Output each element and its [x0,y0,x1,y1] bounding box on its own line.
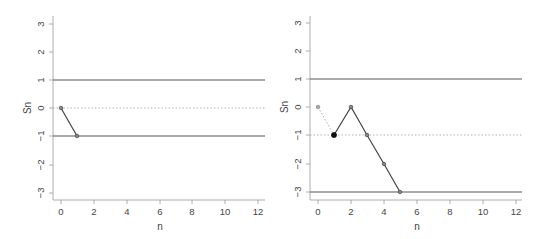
right-point-current [331,132,336,137]
svg-text:0: 0 [315,206,320,217]
left-y-ticks [49,24,53,193]
svg-text:−3: −3 [292,187,303,198]
left-y-tick-labels: 3 2 1 0 −1 −2 −3 [35,21,46,198]
svg-text:3: 3 [35,21,46,26]
svg-text:−2: −2 [35,160,46,171]
svg-text:4: 4 [381,206,386,217]
right-y-ticks [306,23,310,192]
svg-text:8: 8 [189,206,194,217]
svg-text:4: 4 [124,206,129,217]
left-path-line [61,108,77,136]
right-y-tick-labels: 3 2 1 0 −1 −2 −3 [292,20,303,197]
right-path-line [334,107,400,192]
right-prior-step-line [318,107,334,135]
svg-text:6: 6 [414,206,419,217]
left-y-axis-title: Sn [22,102,33,114]
right-point [365,133,369,137]
svg-text:12: 12 [253,206,264,217]
svg-text:0: 0 [292,104,303,109]
svg-text:2: 2 [91,206,96,217]
left-point [59,106,63,110]
right-x-axis-title: n [414,221,420,232]
right-plot: 3 2 1 0 −1 −2 −3 Sn 0 2 4 6 8 10 12 n [279,16,522,232]
svg-text:−3: −3 [35,188,46,199]
svg-text:2: 2 [348,206,353,217]
svg-text:6: 6 [157,206,162,217]
svg-text:−2: −2 [292,159,303,170]
svg-text:−1: −1 [292,130,303,141]
figure: 3 2 1 0 −1 −2 −3 Sn 0 2 4 6 8 10 12 [0,0,547,239]
svg-text:8: 8 [447,206,452,217]
left-x-tick-labels: 0 2 4 6 8 10 12 [58,206,263,217]
svg-text:10: 10 [478,206,489,217]
svg-text:1: 1 [292,76,303,81]
left-x-ticks [61,200,258,204]
svg-text:2: 2 [292,48,303,53]
svg-text:1: 1 [35,77,46,82]
right-x-ticks [318,200,516,204]
svg-text:0: 0 [58,206,63,217]
svg-text:0: 0 [35,105,46,110]
right-y-axis-title: Sn [279,101,290,113]
svg-text:10: 10 [220,206,231,217]
right-point [398,190,402,194]
right-point [382,162,386,166]
svg-text:3: 3 [292,20,303,25]
right-x-tick-labels: 0 2 4 6 8 10 12 [315,206,521,217]
svg-text:2: 2 [35,49,46,54]
left-point [75,134,79,138]
left-x-axis-title: n [157,221,163,232]
right-point [349,105,353,109]
svg-text:12: 12 [511,206,522,217]
svg-text:−1: −1 [35,131,46,142]
right-point [316,105,320,109]
left-plot: 3 2 1 0 −1 −2 −3 Sn 0 2 4 6 8 10 12 [22,16,265,232]
